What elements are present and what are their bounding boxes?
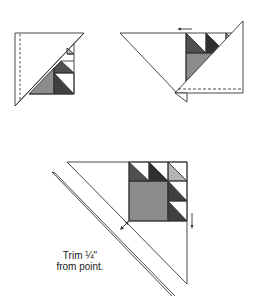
diagram-canvas xyxy=(0,0,259,296)
light-triangle xyxy=(67,48,74,54)
trim-caption: Trim ¼" from point. xyxy=(40,250,120,272)
medium-square xyxy=(129,181,168,221)
dark-triangle xyxy=(54,61,74,73)
caption-line-1: Trim ¼" xyxy=(40,250,120,261)
figure-step-3 xyxy=(52,162,194,296)
figure-step-2 xyxy=(120,21,243,102)
quarter-inch-measure-arrows xyxy=(120,221,129,230)
figure-step-1 xyxy=(15,33,84,106)
caption-line-2: from point. xyxy=(40,261,120,272)
arrow-down-icon xyxy=(191,213,194,229)
